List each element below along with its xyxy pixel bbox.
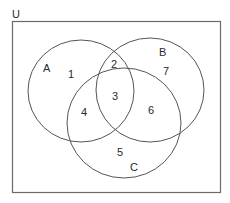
region-2-label: 2 [111, 58, 117, 70]
set-a-label: A [43, 62, 51, 74]
universe-label: U [12, 8, 20, 20]
region-1-label: 1 [68, 68, 74, 80]
region-7-label: 7 [163, 65, 169, 77]
set-c-label: C [130, 161, 138, 173]
set-b-label: B [159, 46, 166, 58]
region-3-label: 3 [112, 90, 118, 102]
venn-diagram: U A B C 1 2 3 4 5 6 7 [0, 0, 230, 203]
region-4-label: 4 [81, 106, 87, 118]
set-c-circle [67, 68, 181, 178]
region-6-label: 6 [148, 104, 154, 116]
universe-rectangle [13, 22, 221, 193]
region-5-label: 5 [117, 146, 123, 158]
